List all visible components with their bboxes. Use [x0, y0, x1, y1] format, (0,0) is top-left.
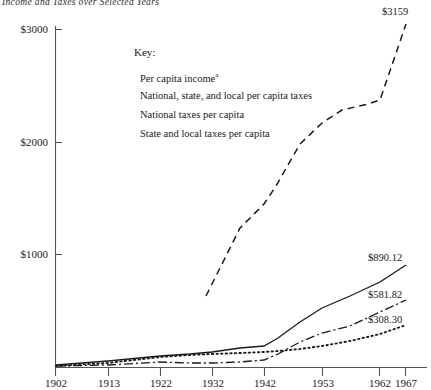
- x-tick-label-1932: 1932: [193, 377, 233, 389]
- y-tick-label-2000: $2000: [0, 136, 48, 148]
- x-tick-label-1913: 1913: [89, 377, 129, 389]
- value-label-national-taxes: $581.82: [368, 289, 402, 300]
- value-label-per-capita-income: $3159: [382, 6, 408, 17]
- x-tick-label-1942: 1942: [245, 377, 285, 389]
- series-line-national-state-local-taxes: [56, 265, 406, 365]
- series-line-national-taxes: [56, 300, 406, 366]
- value-label-national-state-local-taxes: $890.12: [368, 252, 402, 263]
- chart-figure: Income and Taxes over Selected Years $30…: [0, 0, 431, 390]
- y-tick-label-3000: $3000: [0, 23, 48, 35]
- value-label-state-local-taxes: $308.30: [368, 314, 402, 325]
- x-tick-label-1922: 1922: [141, 377, 181, 389]
- legend-label-national-state-local-taxes: National, state, and local per capita ta…: [140, 90, 312, 101]
- x-tick-label-1953: 1953: [303, 377, 343, 389]
- chart-plot-area: [0, 0, 431, 390]
- legend-label-state-local-taxes: State and local taxes per capita: [140, 128, 270, 139]
- y-tick-label-1000: $1000: [0, 248, 48, 260]
- series-line-state-local-taxes: [56, 325, 406, 366]
- legend-label-national-taxes: National taxes per capita: [140, 109, 244, 120]
- legend-label-per-capita-income: Per capita incomea: [140, 71, 218, 84]
- x-tick-label-1967: 1967: [386, 377, 426, 389]
- legend-title: Key:: [134, 46, 155, 58]
- x-tick-label-1902: 1902: [36, 377, 76, 389]
